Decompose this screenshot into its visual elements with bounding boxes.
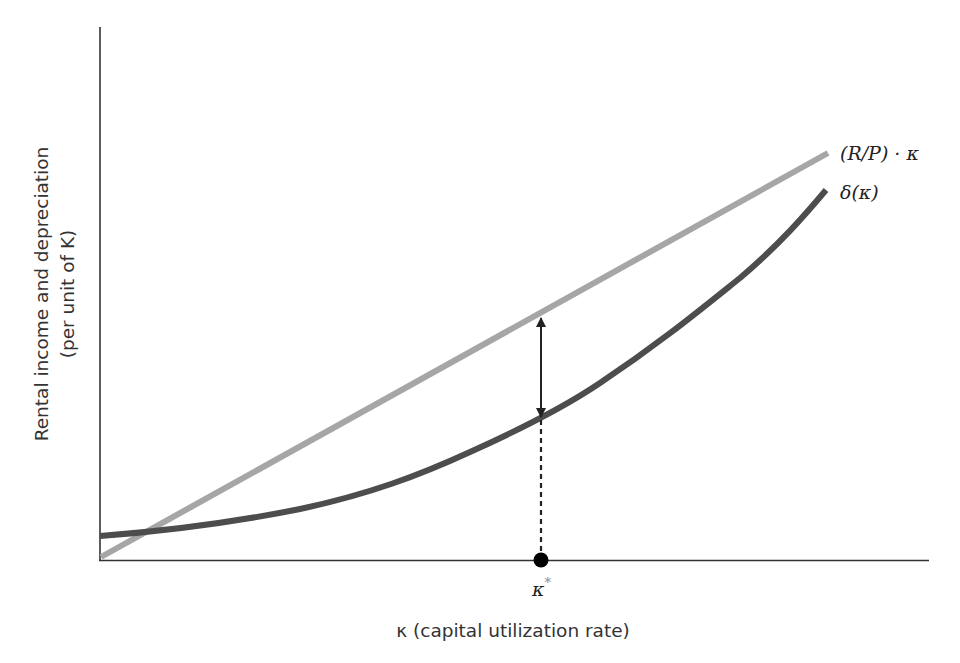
chart-canvas: (R/P) · κ δ(κ) κ* κ (capital utilization… xyxy=(0,0,960,663)
y-axis-label-line2: (per unit of K) xyxy=(57,230,78,359)
rental-income-line xyxy=(101,153,828,557)
kstar-base: κ xyxy=(531,578,545,600)
y-axis-label-line1: Rental income and depreciation xyxy=(31,147,52,442)
kstar-point xyxy=(534,553,549,568)
kstar-superscript: * xyxy=(544,575,551,590)
rental-income-label: (R/P) · κ xyxy=(840,142,919,164)
depreciation-curve xyxy=(100,190,826,536)
kstar-label: κ* xyxy=(531,575,551,600)
x-axis-label: κ (capital utilization rate) xyxy=(396,620,630,641)
depreciation-label: δ(κ) xyxy=(840,181,879,203)
